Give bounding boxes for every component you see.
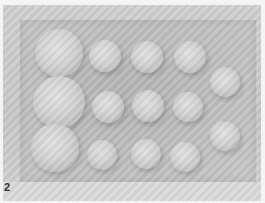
dome [210, 121, 240, 151]
dome [31, 124, 79, 172]
dome [170, 142, 200, 172]
bottom-band [3, 182, 261, 201]
dome [87, 140, 117, 170]
dome [131, 139, 161, 169]
dome [89, 40, 121, 72]
dome [174, 41, 206, 73]
dome [210, 67, 240, 97]
panel-label: 2 [4, 181, 10, 193]
dome [92, 91, 124, 123]
dome [131, 41, 163, 73]
dome [35, 29, 83, 77]
dome [173, 92, 203, 122]
photo-frame [3, 5, 261, 201]
dome [132, 90, 164, 122]
dome [33, 76, 85, 128]
